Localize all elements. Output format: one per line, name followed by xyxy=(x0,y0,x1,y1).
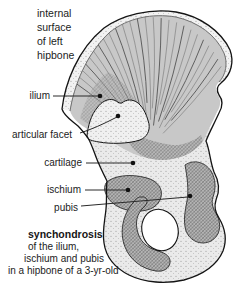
leader-dot-pubis xyxy=(188,194,193,199)
leader-dot-articular-facet xyxy=(116,114,121,119)
leader-dot-ilium xyxy=(98,94,103,99)
label-articular-facet: articular facet xyxy=(12,129,72,141)
caption-line: of the ilium, xyxy=(28,241,79,253)
caption-line: in a hipbone of a 3-yr-old xyxy=(8,265,119,277)
leader-dot-ischium xyxy=(126,188,131,193)
title-line: of left xyxy=(37,34,74,48)
label-cartilage: cartilage xyxy=(30,157,82,169)
leader-dot-cartilage xyxy=(131,161,136,166)
label-ilium: ilium xyxy=(16,90,50,102)
label-ischium: ischium xyxy=(35,184,81,196)
caption-line: ischium and pubis xyxy=(24,253,104,265)
label-pubis: pubis xyxy=(40,202,78,214)
figure-title: internal surface of left hipbone xyxy=(37,6,74,62)
figure-hipbone-diagram: internal surface of left hipbone ilium a… xyxy=(0,0,238,289)
title-line: surface xyxy=(37,20,74,34)
caption-term: synchondrosis xyxy=(28,228,103,240)
title-line: hipbone xyxy=(37,48,74,62)
title-line: internal xyxy=(37,6,74,20)
